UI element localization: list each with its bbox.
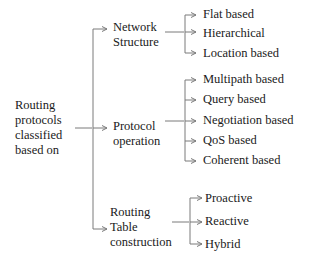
category-label-line: operation [113,134,160,149]
category-label-line: Protocol [113,119,155,134]
root-label-line: protocols [15,113,62,128]
leaf-multipath-based: Multipath based [203,72,284,87]
leaf-flat-based: Flat based [203,7,254,22]
leaf-reactive: Reactive [205,214,249,229]
leaf-coherent-based: Coherent based [203,153,280,168]
leaf-hybrid: Hybrid [205,237,240,252]
leaf-proactive: Proactive [205,191,252,206]
category-label-line: construction [110,235,172,250]
leaf-location-based: Location based [203,46,279,61]
category-label-line: Structure [113,35,159,50]
category-label-line: Routing [110,205,150,220]
root-label-line: Routing [15,98,55,113]
leaf-query-based: Query based [203,92,266,107]
leaf-qos-based: QoS based [203,133,257,148]
root-label-line: classified [15,128,62,143]
category-label-line: Table [110,220,138,235]
leaf-negotiation-based: Negotiation based [203,113,294,128]
category-label-line: Network [113,20,157,35]
root-label-line: based on [15,143,59,158]
leaf-hierarchical: Hierarchical [203,26,265,41]
